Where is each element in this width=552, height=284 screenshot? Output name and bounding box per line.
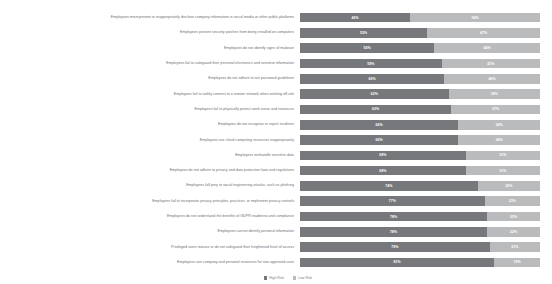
chart-row-label: Employees do not understand the benefits…	[12, 214, 300, 219]
bar-segment-high-risk: 78%	[300, 212, 487, 222]
bar-value-low-risk: 37%	[492, 107, 499, 111]
bar-value-high-risk: 69%	[379, 169, 386, 173]
bar-segment-high-risk: 78%	[300, 227, 487, 237]
bar-segment-high-risk: 77%	[300, 196, 485, 206]
chart-row: Employees use company and personal resou…	[12, 255, 540, 270]
chart-row-label: Employees do not adhere to our password …	[12, 76, 300, 81]
bar-segment-low-risk: 40%	[444, 74, 540, 84]
chart-bar: 46%54%	[300, 13, 540, 23]
stacked-bar-chart: Employees misrepresent or inappropriatel…	[0, 0, 552, 284]
bar-value-low-risk: 44%	[484, 46, 491, 50]
chart-row-label: Employees fail to physically protect wor…	[12, 107, 300, 112]
bar-value-low-risk: 40%	[488, 77, 495, 81]
bar-value-high-risk: 81%	[394, 260, 401, 264]
bar-segment-high-risk: 62%	[300, 89, 449, 99]
legend-label: High Risk	[269, 276, 284, 280]
chart-bar: 81%19%	[300, 258, 540, 268]
bar-segment-low-risk: 22%	[487, 227, 540, 237]
chart-bar: 53%47%	[300, 28, 540, 38]
chart-bar: 63%37%	[300, 105, 540, 115]
bar-segment-low-risk: 37%	[451, 105, 540, 115]
bar-value-low-risk: 21%	[511, 245, 518, 249]
bar-value-high-risk: 78%	[390, 215, 397, 219]
bar-value-low-risk: 34%	[496, 138, 503, 142]
bar-segment-high-risk: 81%	[300, 258, 494, 268]
bar-segment-low-risk: 47%	[427, 28, 540, 38]
chart-bar: 79%21%	[300, 242, 540, 252]
bar-segment-high-risk: 74%	[300, 181, 478, 191]
chart-row: Employees do not identify signs of malwa…	[12, 41, 540, 56]
bar-segment-high-risk: 56%	[300, 43, 434, 53]
legend-swatch-icon	[264, 276, 267, 279]
bar-segment-low-risk: 22%	[487, 212, 540, 222]
chart-row: Employees use cloud computing resources …	[12, 132, 540, 147]
bar-value-high-risk: 66%	[376, 138, 383, 142]
chart-bar: 69%31%	[300, 166, 540, 176]
chart-row-label: Employees misrepresent or inappropriatel…	[12, 15, 300, 20]
chart-row: Employees fail to safeguard their person…	[12, 56, 540, 71]
chart-bar: 66%34%	[300, 135, 540, 145]
chart-bar: 66%34%	[300, 120, 540, 130]
legend-swatch-icon	[293, 276, 296, 279]
bar-value-low-risk: 26%	[505, 184, 512, 188]
chart-row-label: Employees fail to incorporate privacy pr…	[12, 199, 300, 204]
chart-bar: 59%41%	[300, 59, 540, 69]
bar-segment-high-risk: 66%	[300, 135, 458, 145]
chart-row: Employees misrepresent or inappropriatel…	[12, 10, 540, 25]
bar-value-low-risk: 31%	[499, 153, 506, 157]
bar-value-low-risk: 41%	[487, 62, 494, 66]
chart-bar: 56%44%	[300, 43, 540, 53]
bar-value-high-risk: 77%	[389, 199, 396, 203]
bar-segment-low-risk: 44%	[434, 43, 540, 53]
chart-row-label: Employees fail to safely connect to a re…	[12, 92, 300, 97]
bar-value-high-risk: 63%	[372, 107, 379, 111]
bar-value-high-risk: 56%	[364, 46, 371, 50]
bar-value-high-risk: 79%	[391, 245, 398, 249]
bar-segment-high-risk: 63%	[300, 105, 451, 115]
chart-row: Employees mishandle sensitive data69%31%	[12, 148, 540, 163]
chart-row: Employees prevent security patches from …	[12, 25, 540, 40]
chart-bar: 74%26%	[300, 181, 540, 191]
bar-segment-low-risk: 31%	[466, 151, 540, 161]
chart-row-label: Employees use cloud computing resources …	[12, 138, 300, 143]
bar-value-low-risk: 54%	[472, 16, 479, 20]
bar-value-high-risk: 60%	[368, 77, 375, 81]
chart-row: Employees do not adhere to our password …	[12, 71, 540, 86]
chart-row: Employees fail to incorporate privacy pr…	[12, 194, 540, 209]
bar-value-low-risk: 38%	[491, 92, 498, 96]
bar-segment-low-risk: 19%	[494, 258, 540, 268]
chart-row: Employees cannot identify personal infor…	[12, 224, 540, 239]
bar-segment-high-risk: 46%	[300, 13, 410, 23]
bar-segment-high-risk: 59%	[300, 59, 442, 69]
bar-value-low-risk: 34%	[496, 123, 503, 127]
bar-segment-low-risk: 54%	[410, 13, 540, 23]
bar-value-low-risk: 22%	[510, 215, 517, 219]
bar-segment-high-risk: 60%	[300, 74, 444, 84]
chart-row: Employees fail to physically protect wor…	[12, 102, 540, 117]
bar-value-high-risk: 59%	[367, 62, 374, 66]
bar-value-low-risk: 19%	[514, 260, 521, 264]
chart-row-label: Employees cannot identify personal infor…	[12, 229, 300, 234]
chart-row-label: Employees do not adhere to privacy and d…	[12, 168, 300, 173]
bar-segment-low-risk: 26%	[478, 181, 540, 191]
legend-label: Low Risk	[298, 276, 312, 280]
bar-segment-low-risk: 34%	[458, 120, 540, 130]
chart-bar: 62%38%	[300, 89, 540, 99]
bar-segment-high-risk: 79%	[300, 242, 490, 252]
bar-segment-high-risk: 66%	[300, 120, 458, 130]
bar-segment-low-risk: 41%	[442, 59, 540, 69]
chart-row: Employees do not understand the benefits…	[12, 209, 540, 224]
bar-segment-low-risk: 38%	[449, 89, 540, 99]
bar-segment-high-risk: 69%	[300, 166, 466, 176]
chart-row-label: Employees fail to safeguard their person…	[12, 61, 300, 66]
chart-bar: 69%31%	[300, 151, 540, 161]
legend-item[interactable]: High Risk	[264, 276, 284, 280]
bar-segment-low-risk: 21%	[490, 242, 540, 252]
chart-row: Employees fail to safely connect to a re…	[12, 86, 540, 101]
bar-segment-high-risk: 69%	[300, 151, 466, 161]
bar-value-low-risk: 22%	[510, 230, 517, 234]
chart-plot-area: Employees misrepresent or inappropriatel…	[12, 10, 540, 270]
bar-segment-low-risk: 34%	[458, 135, 540, 145]
bar-value-high-risk: 62%	[371, 92, 378, 96]
legend-item[interactable]: Low Risk	[293, 276, 312, 280]
